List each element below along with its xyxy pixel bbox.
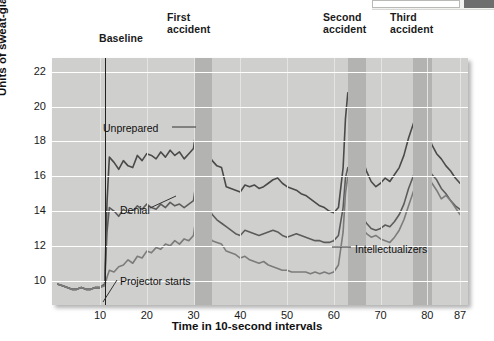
series-unprepared <box>58 89 460 289</box>
gridline-x-70 <box>381 58 382 305</box>
annotation-intellectualizers: Intellectualizers <box>355 243 427 255</box>
gridline-y-14 <box>52 211 468 212</box>
band-heading-baseline: Baseline <box>99 33 143 45</box>
y-tick-16: 16 <box>20 169 46 181</box>
gridline-x-20 <box>147 58 148 305</box>
x-axis-label: Time in 10-second intervals <box>0 320 494 332</box>
annotation-unprepared: Unprepared <box>103 122 158 134</box>
series-intellectualizers <box>58 166 460 290</box>
y-tick-20: 20 <box>20 100 46 112</box>
y-tick-22: 22 <box>20 65 46 77</box>
cropped-toolbar-artifact <box>372 0 494 10</box>
gridline-x-40 <box>240 58 241 305</box>
band-heading-first-accident: First accident <box>167 12 210 35</box>
gridline-y-16 <box>52 176 468 177</box>
gridline-y-10 <box>52 281 468 282</box>
y-axis-label: Units of sweat-gland activity <box>0 0 8 96</box>
y-tick-10: 10 <box>20 274 46 286</box>
y-tick-18: 18 <box>20 134 46 146</box>
event-band-second-accident <box>348 58 367 305</box>
gridline-y-20 <box>52 107 468 108</box>
band-heading-second-accident: Second accident <box>323 12 366 35</box>
gridline-x-60 <box>334 58 335 305</box>
gridline-y-22 <box>52 72 468 73</box>
toolbar-button-artifact <box>464 0 494 8</box>
y-tick-14: 14 <box>20 204 46 216</box>
toolbar-input-artifact <box>372 0 460 8</box>
gridline-x-87 <box>460 58 461 305</box>
gridline-x-30 <box>194 58 195 305</box>
annotation-projector-starts: Projector starts <box>120 275 191 287</box>
chart-figure: BaselineFirst accidentSecond accidentThi… <box>0 0 494 341</box>
event-band-third-accident <box>413 58 432 305</box>
series-lines <box>52 58 468 305</box>
event-band-first-accident <box>194 58 213 305</box>
gridline-x-50 <box>287 58 288 305</box>
gridline-x-80 <box>427 58 428 305</box>
gridline-x-10 <box>100 58 101 305</box>
annotation-denial: Denial <box>120 204 150 216</box>
plot-area <box>52 58 468 305</box>
y-tick-12: 12 <box>20 239 46 251</box>
band-heading-third-accident: Third accident <box>390 12 433 35</box>
gridline-y-18 <box>52 141 468 142</box>
marker-projector-starts <box>105 58 106 305</box>
